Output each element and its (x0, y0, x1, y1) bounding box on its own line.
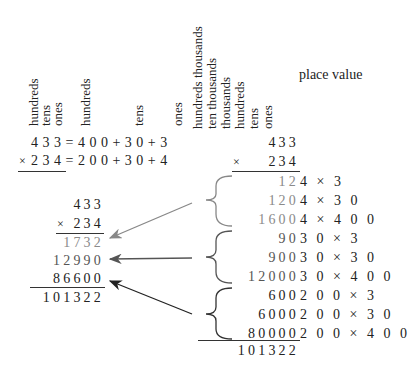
arrow-3 (110, 281, 192, 314)
brace-group-1 (206, 176, 232, 226)
brace-group-2 (206, 231, 232, 283)
arrow-2 (110, 258, 192, 259)
arrow-1 (110, 203, 192, 238)
brace-group-3 (206, 288, 232, 339)
